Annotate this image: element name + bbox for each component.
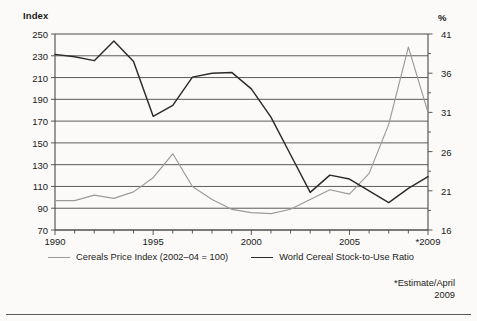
footnote-line-1: *Estimate/April [394, 278, 455, 290]
plot-area [0, 0, 477, 321]
chart-figure: Index % 7090110130150170190210230250 162… [0, 0, 477, 321]
bottom-divider [6, 314, 471, 315]
legend-swatch-cereals-price-index [48, 257, 70, 258]
footnote-line-2: 2009 [394, 290, 455, 302]
legend-item-cereals-price-index: Cereals Price Index (2002–04 = 100) [48, 252, 228, 262]
legend-swatch-stock-to-use-ratio [251, 257, 273, 258]
series-line-stock-to-use-ratio [55, 41, 428, 203]
legend-item-stock-to-use-ratio: World Cereal Stock-to-Use Ratio [251, 252, 414, 262]
legend-label-stock-to-use-ratio: World Cereal Stock-to-Use Ratio [279, 252, 414, 262]
legend-label-cereals-price-index: Cereals Price Index (2002–04 = 100) [76, 252, 228, 262]
chart-legend: Cereals Price Index (2002–04 = 100) Worl… [48, 252, 448, 262]
footnote: *Estimate/April 2009 [394, 278, 455, 302]
series-line-cereals-price-index [55, 47, 428, 214]
